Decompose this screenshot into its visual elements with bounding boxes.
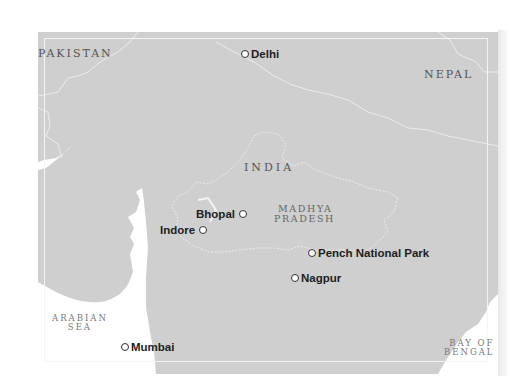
circle-marker-icon [241, 50, 249, 58]
city-pench-national-park[interactable]: Pench National Park [308, 247, 429, 259]
city-label: Nagpur [301, 272, 341, 284]
circle-marker-icon [291, 274, 299, 282]
city-label: Indore [160, 224, 195, 236]
city-delhi[interactable]: Delhi [241, 48, 279, 60]
circle-marker-icon [308, 249, 316, 257]
city-mumbai[interactable]: Mumbai [121, 341, 174, 353]
pakistan-border-south [38, 108, 62, 158]
circle-marker-icon [199, 226, 207, 234]
country-label-pakistan: PAKISTAN [38, 48, 113, 60]
map-shadow [498, 30, 510, 376]
city-label: Pench National Park [318, 247, 429, 259]
gulf-shape [38, 144, 72, 170]
city-nagpur[interactable]: Nagpur [291, 272, 341, 284]
city-bhopal[interactable]: Bhopal [196, 208, 247, 220]
city-label: Bhopal [196, 208, 235, 220]
circle-marker-icon [239, 210, 247, 218]
region-label-madhya-pradesh: MADHYA PRADESH [274, 204, 335, 225]
sea-label-line2: BENGAL [444, 348, 494, 357]
country-label-nepal: NEPAL [424, 69, 473, 81]
city-label: Delhi [251, 48, 279, 60]
bay-of-bengal-shape [438, 294, 498, 374]
pakistan-border [38, 32, 138, 96]
city-indore[interactable]: Indore [160, 224, 207, 236]
circle-marker-icon [121, 343, 129, 351]
map: PAKISTAN NEPAL INDIA MADHYA PRADESH ARAB… [38, 32, 498, 374]
region-label-line2: PRADESH [274, 214, 335, 224]
nepal-border-north [438, 32, 498, 72]
sea-label-arabian-sea: ARABIAN SEA [52, 314, 108, 333]
city-label: Mumbai [131, 341, 174, 353]
sea-label-line2: SEA [52, 323, 108, 332]
sea-label-bay-of-bengal: BAY OF BENGAL [444, 339, 494, 358]
country-label-india: INDIA [244, 162, 294, 174]
